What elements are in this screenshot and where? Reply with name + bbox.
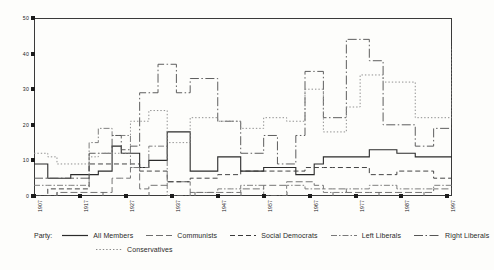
x-tick-minor [424,192,425,196]
legend-entry-all-members[interactable]: All Members [62,232,133,239]
y-tick-label: 40 [23,51,29,57]
plot-lines [34,18,452,196]
y-tick-mark [31,158,35,162]
x-tick-mark [354,194,358,198]
x-tick-minor [240,192,241,196]
legend-entry-social-democrats[interactable]: Social Democrats [230,232,317,239]
chart-legend: Party: All MembersCommunistsSocial Democ… [34,228,454,256]
x-tick-label: 1997 [450,200,456,212]
legend-entry-communists[interactable]: Communists [146,232,217,239]
legend-entry-conservatives[interactable]: Conservatives [96,246,173,253]
x-tick-label: 1957 [267,200,273,212]
legend-row-primary: Party: All MembersCommunistsSocial Democ… [34,228,454,242]
x-tick-minor [194,192,195,196]
x-tick-label: 1947 [221,200,227,212]
x-tick-minor [56,192,57,196]
x-tick-mark [216,194,220,198]
x-tick-label: 1917 [83,200,89,212]
legend-title: Party: [34,232,52,239]
legend-swatch-dashed-long [146,232,172,239]
y-tick-label: 20 [23,122,29,128]
legend-entries-row-1: All MembersCommunistsSocial DemocratsLef… [62,232,494,239]
x-tick-label: 1977 [359,200,365,212]
x-tick-mark [399,194,403,198]
series-line-social-democrats [34,164,452,196]
legend-label: Communists [177,232,217,239]
x-tick-mark [262,194,266,198]
y-tick-label: 0 [26,193,29,199]
series-line-all-members [34,132,452,178]
legend-swatch-dash-dot-long [414,232,440,239]
legend-entry-right-liberals[interactable]: Right Liberals [414,232,489,239]
legend-swatch-dash-dot [331,232,357,239]
legend-label: All Members [93,232,133,239]
legend-label: Social Democrats [261,232,317,239]
legend-swatch-dashed-med [230,232,256,239]
x-tick-minor [148,192,149,196]
legend-label: Left Liberals [362,232,401,239]
x-tick-minor [102,192,103,196]
x-tick-label: 1907 [37,200,43,212]
y-tick-mark [31,52,35,56]
series-line-left-liberals [34,128,452,196]
x-tick-mark [124,194,128,198]
x-tick-label: 1987 [404,200,410,212]
x-tick-minor [286,192,287,196]
y-tick-mark [31,16,35,20]
series-line-conservatives [34,46,452,163]
x-tick-label: 1967 [313,200,319,212]
legend-row-secondary: Conservatives [96,242,454,256]
legend-label: Conservatives [127,246,173,253]
legend-swatch-solid [62,232,88,239]
x-tick-mark [78,194,82,198]
legend-label: Right Liberals [445,232,489,239]
x-tick-label: 1927 [129,200,135,212]
y-tick-label: 50 [23,15,29,21]
y-tick-mark [31,87,35,91]
x-tick-label: 1937 [175,200,181,212]
series-line-right-liberals [34,39,452,178]
x-tick-mark [170,194,174,198]
legend-entries-row-2: Conservatives [96,246,186,253]
x-tick-minor [378,192,379,196]
series-line-communists [34,168,452,196]
x-tick-mark [308,194,312,198]
y-tick-label: 10 [23,157,29,163]
x-tick-mark [445,194,449,198]
y-tick-label: 30 [23,86,29,92]
legend-entry-left-liberals[interactable]: Left Liberals [331,232,401,239]
plot-area: 01020304050 1907191719271937194719571967… [34,18,452,196]
x-tick-minor [332,192,333,196]
legend-swatch-dotted [96,246,122,253]
x-tick-mark [32,194,36,198]
y-tick-mark [31,123,35,127]
